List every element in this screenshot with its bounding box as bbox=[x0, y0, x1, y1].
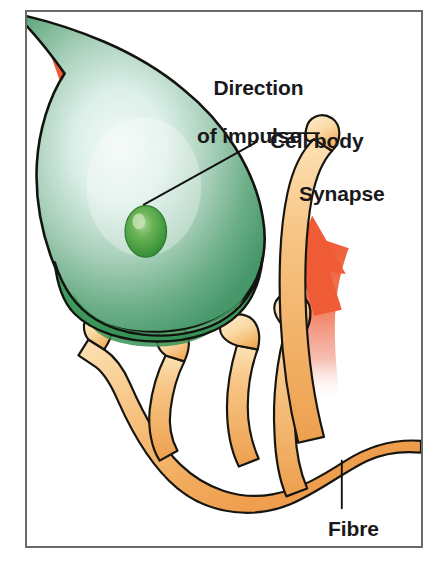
nucleus bbox=[125, 206, 167, 258]
figure-root: Direction of impulse Cell body Synapse F… bbox=[0, 0, 442, 565]
label-cell-body: Cell body bbox=[270, 129, 364, 153]
label-direction-line1: Direction bbox=[213, 76, 303, 99]
label-fibre: Fibre bbox=[328, 517, 379, 541]
label-synapse: Synapse bbox=[299, 182, 385, 206]
diagram-frame: Direction of impulse Cell body Synapse F… bbox=[25, 10, 423, 548]
label-direction-of-impulse: Direction of impulse bbox=[179, 52, 304, 196]
